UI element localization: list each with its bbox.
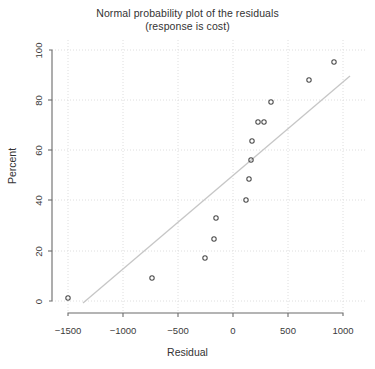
data-point xyxy=(262,120,266,124)
data-point xyxy=(150,276,154,280)
data-points xyxy=(66,60,336,300)
y-axis xyxy=(48,50,52,301)
grid-vertical xyxy=(68,40,343,312)
x-axis xyxy=(68,313,343,317)
data-point xyxy=(247,177,251,181)
plot-canvas xyxy=(0,0,375,369)
data-point xyxy=(250,139,254,143)
data-point xyxy=(332,60,336,64)
data-point xyxy=(212,237,216,241)
reference-line xyxy=(83,76,350,303)
data-point xyxy=(214,216,218,220)
data-point xyxy=(307,78,311,82)
grid-horizontal xyxy=(52,50,366,301)
data-point xyxy=(203,256,207,260)
data-point xyxy=(256,120,260,124)
normal-probability-plot: Normal probability plot of the residuals… xyxy=(0,0,375,369)
